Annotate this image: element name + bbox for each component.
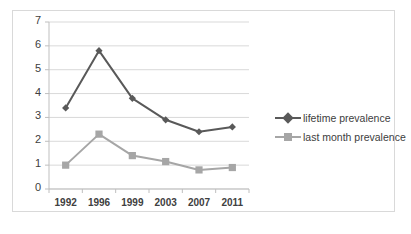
y-axis-tick-label: 2 [27, 133, 41, 145]
y-axis-tick-label: 4 [27, 86, 41, 98]
legend-label-lifetime-prevalence: lifetime prevalence [301, 112, 391, 124]
diamond-marker-icon [282, 112, 293, 123]
data-point-marker [129, 152, 136, 159]
y-axis-tick-label: 0 [27, 181, 41, 193]
square-marker-icon [284, 133, 292, 141]
legend-swatch-last-month-prevalence [275, 131, 301, 143]
chart-container: 01234567 199219961999200320072011 lifeti… [12, 10, 395, 212]
data-point-marker [195, 128, 202, 135]
y-axis-tick-label: 1 [27, 157, 41, 169]
data-point-marker [62, 162, 69, 169]
y-axis-tick-label: 6 [27, 38, 41, 50]
legend-label-last-month-prevalence: last month prevalence [301, 131, 406, 143]
series-line [66, 51, 233, 132]
y-axis-tick-label: 5 [27, 62, 41, 74]
chart-legend: lifetime prevalence last month prevalenc… [275, 109, 405, 147]
y-axis-tick-label: 3 [27, 109, 41, 121]
series-line [66, 134, 233, 170]
y-axis-tick-label: 7 [27, 14, 41, 26]
x-axis-tick-label: 2011 [212, 197, 252, 208]
legend-swatch-lifetime-prevalence [275, 112, 301, 124]
data-point-marker [229, 164, 236, 171]
data-point-marker [229, 123, 236, 130]
data-point-marker [195, 166, 202, 173]
legend-item-last-month-prevalence: last month prevalence [275, 128, 405, 145]
data-point-marker [95, 131, 102, 138]
data-point-marker [162, 158, 169, 165]
legend-item-lifetime-prevalence: lifetime prevalence [275, 109, 405, 126]
